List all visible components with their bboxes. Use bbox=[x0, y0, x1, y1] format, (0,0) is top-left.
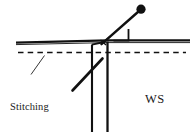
sewing-diagram: Stitching line WS bbox=[0, 0, 196, 132]
wrong-side-label: WS bbox=[145, 92, 165, 106]
stitching-line-label: Stitching line bbox=[10, 77, 49, 132]
pin-head bbox=[136, 5, 145, 14]
stitching-line-label-line1: Stitching bbox=[10, 101, 49, 113]
